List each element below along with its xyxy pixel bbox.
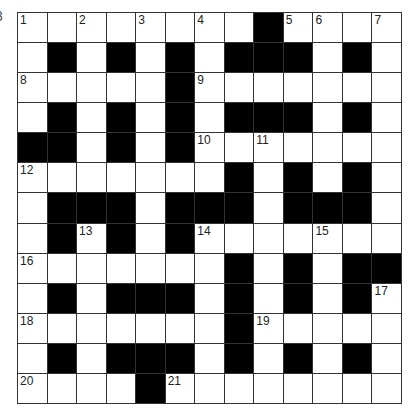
answer-cell[interactable] (284, 73, 313, 102)
answer-cell[interactable]: 8 (18, 73, 47, 102)
answer-cell[interactable] (225, 13, 254, 42)
answer-cell[interactable] (136, 133, 165, 162)
answer-cell[interactable]: 16 (18, 254, 47, 283)
answer-cell[interactable]: 6 (313, 13, 342, 42)
answer-cell[interactable] (254, 73, 283, 102)
answer-cell[interactable] (372, 224, 401, 253)
answer-cell[interactable]: 14 (195, 224, 224, 253)
answer-cell[interactable]: 10 (195, 133, 224, 162)
answer-cell[interactable] (372, 163, 401, 192)
answer-cell[interactable] (195, 314, 224, 343)
answer-cell[interactable] (107, 314, 136, 343)
answer-cell[interactable] (313, 374, 342, 403)
answer-cell[interactable] (343, 224, 372, 253)
answer-cell[interactable] (107, 13, 136, 42)
answer-cell[interactable] (313, 163, 342, 192)
answer-cell[interactable] (18, 43, 47, 72)
answer-cell[interactable] (77, 103, 106, 132)
answer-cell[interactable] (77, 163, 106, 192)
answer-cell[interactable] (195, 163, 224, 192)
answer-cell[interactable] (136, 314, 165, 343)
answer-cell[interactable]: 17 (372, 284, 401, 313)
answer-cell[interactable]: 9 (195, 73, 224, 102)
answer-cell[interactable] (343, 314, 372, 343)
answer-cell[interactable] (48, 163, 77, 192)
answer-cell[interactable] (313, 133, 342, 162)
answer-cell[interactable] (195, 374, 224, 403)
answer-cell[interactable] (343, 73, 372, 102)
answer-cell[interactable] (225, 133, 254, 162)
answer-cell[interactable] (254, 193, 283, 222)
answer-cell[interactable] (77, 43, 106, 72)
answer-cell[interactable] (313, 284, 342, 313)
answer-cell[interactable] (18, 224, 47, 253)
answer-cell[interactable] (48, 254, 77, 283)
answer-cell[interactable]: 12 (18, 163, 47, 192)
answer-cell[interactable] (48, 13, 77, 42)
answer-cell[interactable] (77, 254, 106, 283)
answer-cell[interactable] (107, 374, 136, 403)
answer-cell[interactable] (136, 163, 165, 192)
answer-cell[interactable] (225, 73, 254, 102)
answer-cell[interactable]: 3 (136, 13, 165, 42)
answer-cell[interactable] (225, 374, 254, 403)
answer-cell[interactable] (372, 314, 401, 343)
answer-cell[interactable] (48, 374, 77, 403)
answer-cell[interactable] (372, 374, 401, 403)
answer-cell[interactable] (372, 133, 401, 162)
answer-cell[interactable] (136, 193, 165, 222)
answer-cell[interactable] (195, 284, 224, 313)
answer-cell[interactable] (18, 344, 47, 373)
answer-cell[interactable] (313, 103, 342, 132)
answer-cell[interactable]: 1 (18, 13, 47, 42)
answer-cell[interactable] (372, 103, 401, 132)
answer-cell[interactable] (136, 43, 165, 72)
answer-cell[interactable] (343, 133, 372, 162)
answer-cell[interactable] (107, 73, 136, 102)
answer-cell[interactable] (284, 374, 313, 403)
answer-cell[interactable] (313, 344, 342, 373)
answer-cell[interactable] (313, 43, 342, 72)
answer-cell[interactable] (343, 374, 372, 403)
answer-cell[interactable] (77, 284, 106, 313)
answer-cell[interactable]: 15 (313, 224, 342, 253)
answer-cell[interactable] (77, 133, 106, 162)
answer-cell[interactable] (48, 314, 77, 343)
answer-cell[interactable] (195, 103, 224, 132)
answer-cell[interactable] (18, 103, 47, 132)
answer-cell[interactable] (18, 193, 47, 222)
answer-cell[interactable] (107, 163, 136, 192)
answer-cell[interactable] (225, 224, 254, 253)
answer-cell[interactable] (313, 314, 342, 343)
answer-cell[interactable] (313, 73, 342, 102)
answer-cell[interactable] (284, 314, 313, 343)
answer-cell[interactable] (254, 374, 283, 403)
answer-cell[interactable]: 11 (254, 133, 283, 162)
answer-cell[interactable] (136, 73, 165, 102)
answer-cell[interactable] (48, 73, 77, 102)
answer-cell[interactable] (372, 193, 401, 222)
answer-cell[interactable] (136, 254, 165, 283)
answer-cell[interactable]: 2 (77, 13, 106, 42)
answer-cell[interactable] (284, 224, 313, 253)
answer-cell[interactable] (254, 344, 283, 373)
answer-cell[interactable]: 13 (77, 224, 106, 253)
answer-cell[interactable] (136, 224, 165, 253)
answer-cell[interactable] (313, 254, 342, 283)
answer-cell[interactable] (166, 314, 195, 343)
answer-cell[interactable] (136, 103, 165, 132)
answer-cell[interactable]: 18 (18, 314, 47, 343)
answer-cell[interactable] (254, 224, 283, 253)
answer-cell[interactable] (372, 73, 401, 102)
answer-cell[interactable] (195, 254, 224, 283)
answer-cell[interactable] (372, 344, 401, 373)
answer-cell[interactable]: 7 (372, 13, 401, 42)
answer-cell[interactable]: 20 (18, 374, 47, 403)
answer-cell[interactable] (77, 344, 106, 373)
answer-cell[interactable] (18, 284, 47, 313)
answer-cell[interactable] (166, 13, 195, 42)
answer-cell[interactable] (195, 43, 224, 72)
answer-cell[interactable] (166, 254, 195, 283)
answer-cell[interactable] (343, 13, 372, 42)
answer-cell[interactable] (166, 163, 195, 192)
